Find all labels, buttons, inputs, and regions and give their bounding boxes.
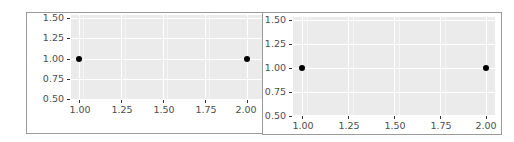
x-tick-label: 1.25 bbox=[334, 121, 364, 131]
x-tick-label: 1.50 bbox=[380, 121, 410, 131]
x-tick-label: 1.00 bbox=[288, 121, 318, 131]
x-tick-label: 1.25 bbox=[107, 105, 137, 115]
x-tick-label: 1.75 bbox=[191, 105, 221, 115]
y-tick-label: 1.25 bbox=[256, 39, 286, 49]
right-plot-area bbox=[293, 17, 495, 116]
y-tick-label: 0.75 bbox=[256, 87, 286, 97]
y-tick-label: 0.50 bbox=[34, 94, 64, 104]
y-tick-label: 0.75 bbox=[34, 74, 64, 84]
y-tick-label: 1.50 bbox=[256, 15, 286, 25]
y-tick-label: 1.00 bbox=[256, 63, 286, 73]
data-point bbox=[299, 65, 305, 71]
y-tick-label: 1.25 bbox=[34, 33, 64, 43]
left-plot-area bbox=[71, 15, 262, 100]
x-tick-label: 1.00 bbox=[65, 105, 95, 115]
x-tick-label: 1.50 bbox=[149, 105, 179, 115]
x-tick-label: 1.75 bbox=[426, 121, 456, 131]
data-point bbox=[76, 56, 82, 62]
data-point bbox=[483, 65, 489, 71]
y-tick-label: 1.50 bbox=[34, 13, 64, 23]
y-tick-label: 1.00 bbox=[34, 54, 64, 64]
x-tick-label: 2.00 bbox=[471, 121, 501, 131]
data-point bbox=[244, 56, 250, 62]
y-tick-label: 0.50 bbox=[256, 111, 286, 121]
